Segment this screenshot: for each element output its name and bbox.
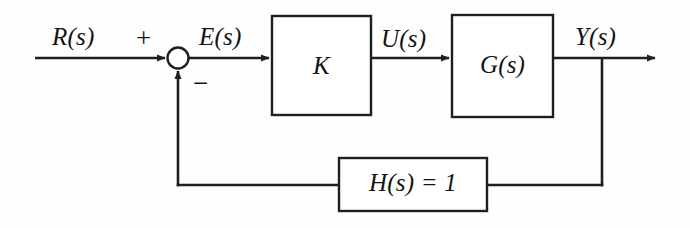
control-signal-label: U(s) bbox=[381, 26, 426, 51]
plant-block-label: G(s) bbox=[452, 52, 553, 77]
block-diagram: R(s) E(s) U(s) Y(s) + − K G(s) H(s) = 1 bbox=[0, 0, 690, 228]
summing-junction bbox=[168, 48, 189, 69]
gain-block-label: K bbox=[272, 53, 371, 78]
output-signal-label: Y(s) bbox=[575, 24, 616, 49]
negative-sign-label: − bbox=[193, 70, 208, 97]
feedback-block-label: H(s) = 1 bbox=[339, 170, 487, 195]
error-signal-label: E(s) bbox=[199, 24, 241, 49]
positive-sign-label: + bbox=[136, 25, 151, 52]
reference-signal-label: R(s) bbox=[52, 24, 94, 49]
